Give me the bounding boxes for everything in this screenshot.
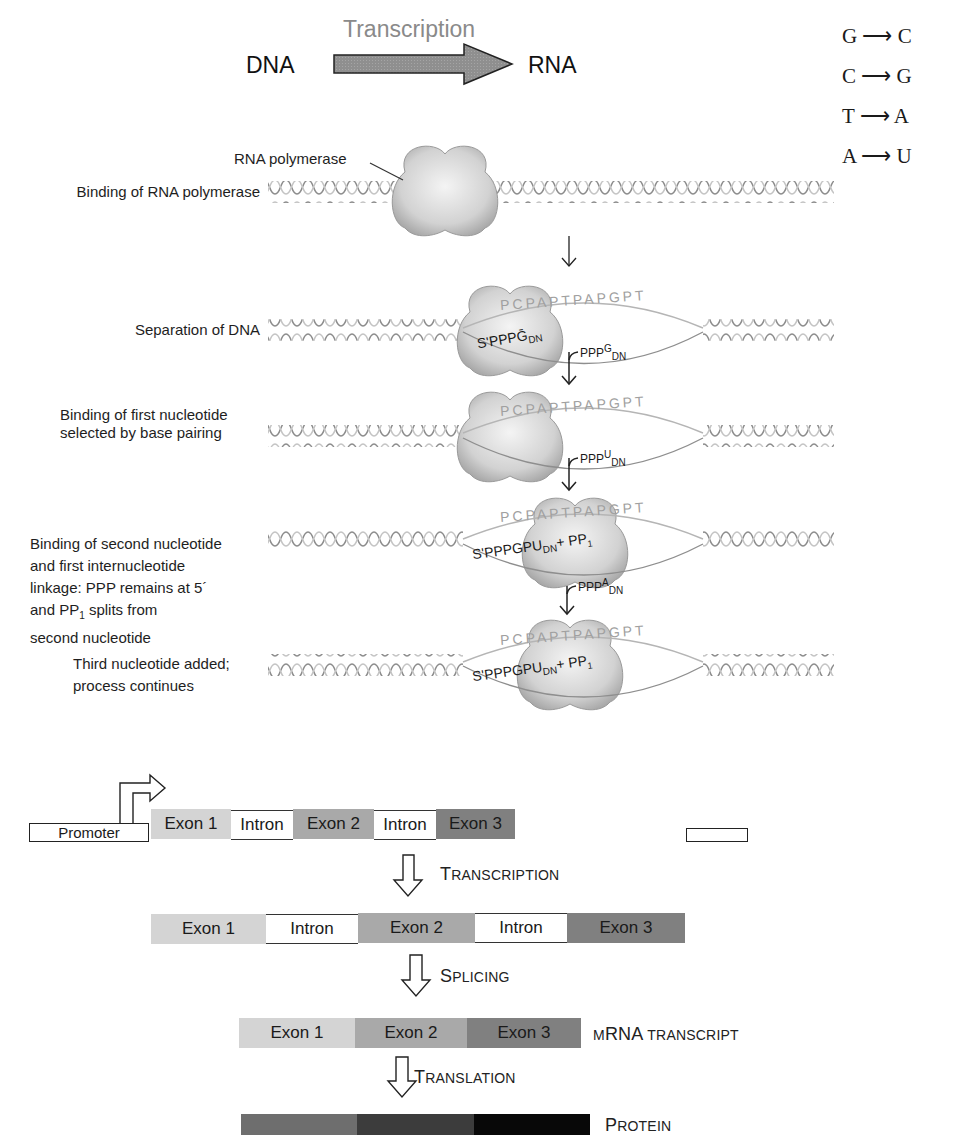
gene-flow-arrows <box>0 0 960 1135</box>
mrna-transcript-label: MRNA TRANSCRIPT <box>593 1024 739 1045</box>
exon-2: Exon 2 <box>355 1018 467 1048</box>
exon-2: Exon 2 <box>358 913 475 943</box>
terminator-box <box>686 828 748 842</box>
intron-1: Intron <box>231 810 293 840</box>
exon-1: Exon 1 <box>151 809 231 839</box>
intron-2: Intron <box>475 913 567 943</box>
intron-2: Intron <box>374 810 436 840</box>
translation-step-label: TRANSLATION <box>414 1067 516 1088</box>
exon-1: Exon 1 <box>239 1018 355 1048</box>
exon-2: Exon 2 <box>293 809 374 839</box>
protein-segment-2 <box>357 1114 474 1135</box>
down-arrow-icon <box>402 955 430 996</box>
exon-1: Exon 1 <box>151 914 266 944</box>
protein-label: PROTEIN <box>605 1115 671 1135</box>
transcription-step-label: TRANSCRIPTION <box>440 864 559 885</box>
protein-segment-3 <box>474 1114 590 1135</box>
protein-segment-1 <box>241 1114 357 1135</box>
intron-1: Intron <box>266 914 358 944</box>
promoter-box: Promoter <box>29 823 149 842</box>
exon-3: Exon 3 <box>467 1018 581 1048</box>
exon-3: Exon 3 <box>567 913 685 943</box>
exon-3: Exon 3 <box>436 809 515 839</box>
splicing-step-label: SPLICING <box>440 966 510 987</box>
down-arrow-icon <box>388 1057 416 1097</box>
down-arrow-icon <box>394 855 422 896</box>
